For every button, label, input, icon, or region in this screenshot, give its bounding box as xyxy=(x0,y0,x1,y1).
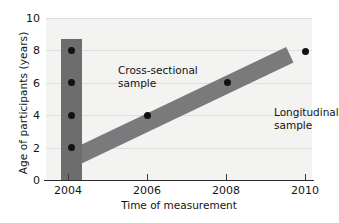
plot-area: Cross-sectional sample Longitudinal samp… xyxy=(46,18,312,180)
y-tick-label-6: 6 xyxy=(18,76,40,89)
y-tick-label-2: 2 xyxy=(18,141,40,154)
x-tick-mark-2010 xyxy=(305,174,306,181)
x-tick-label-2006: 2006 xyxy=(124,184,170,197)
gridline-8 xyxy=(46,50,312,51)
datapoint-long-2010-8 xyxy=(302,48,309,55)
y-tick-label-4: 4 xyxy=(18,109,40,122)
x-axis-title: Time of measurement xyxy=(46,199,312,211)
x-tick-label-2004: 2004 xyxy=(45,184,91,197)
y-tick-label-10: 10 xyxy=(18,12,40,25)
datapoint-long-2006-4 xyxy=(144,112,151,119)
x-tick-label-2008: 2008 xyxy=(203,184,249,197)
annotation-cross-sectional: Cross-sectional sample xyxy=(118,64,198,89)
x-tick-mark-2004 xyxy=(68,174,69,181)
datapoint-cross-2004-8 xyxy=(68,47,75,54)
x-axis-line xyxy=(44,180,314,181)
cross-sectional-band xyxy=(61,39,82,180)
datapoint-long-2008-6 xyxy=(224,79,231,86)
y-tick-label-0: 0 xyxy=(18,174,40,187)
datapoint-cross-2004-4 xyxy=(68,112,75,119)
x-tick-label-2010: 2010 xyxy=(282,184,328,197)
annotation-longitudinal: Longitudinal sample xyxy=(274,106,339,131)
gridline-10 xyxy=(46,18,312,19)
x-tick-mark-2008 xyxy=(226,174,227,181)
y-tick-label-8: 8 xyxy=(18,44,40,57)
x-tick-mark-2006 xyxy=(147,174,148,181)
